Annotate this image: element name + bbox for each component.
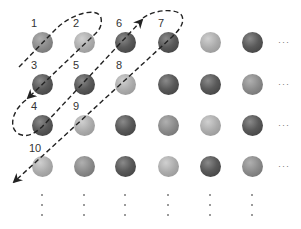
enumeration-path: [0, 0, 301, 229]
path-segment-7-10: [14, 11, 183, 182]
path-segment-4-6: [13, 20, 142, 135]
enumeration-diagram: 1 2 3 4 5 6 7 8 9 10 ··· ··· ··· ···: [0, 0, 301, 229]
path-segment-1-3: [19, 12, 101, 98]
